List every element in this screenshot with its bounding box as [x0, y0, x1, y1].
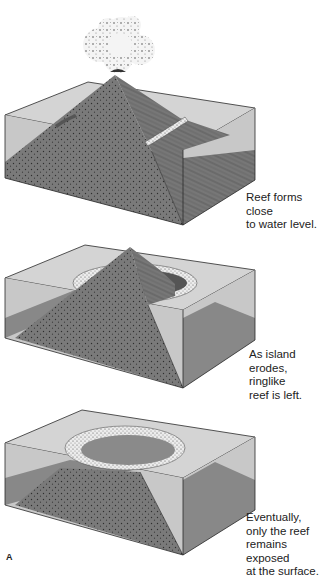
lagoon [81, 435, 175, 465]
caption-line: erodes, [249, 362, 302, 376]
caption-line: ringlike [249, 375, 302, 389]
caption-line: Reef forms close [246, 191, 330, 218]
caption-line: only the reef [246, 525, 330, 539]
stage-3-caption: Eventually, only the reef remains expose… [246, 511, 330, 579]
seafloor-right [183, 150, 255, 225]
stage-3-block [5, 410, 255, 555]
caption-line: As island [249, 348, 302, 362]
panel-label: A [6, 552, 13, 562]
stage-1-caption: Reef forms close to water level. [246, 191, 330, 232]
stage-2-caption: As island erodes, ringlike reef is left. [249, 348, 302, 402]
caption-line: Eventually, [246, 511, 330, 525]
stage-2-block [5, 245, 255, 388]
caption-line: reef is left. [249, 389, 302, 403]
seafloor-right [183, 462, 255, 555]
seafloor-right [183, 302, 255, 388]
caption-line: to water level. [246, 218, 330, 232]
caption-line: at the surface. [246, 565, 330, 579]
stage-1-block [5, 16, 255, 225]
eruption-cloud [83, 16, 155, 73]
caption-line: remains exposed [246, 538, 330, 565]
